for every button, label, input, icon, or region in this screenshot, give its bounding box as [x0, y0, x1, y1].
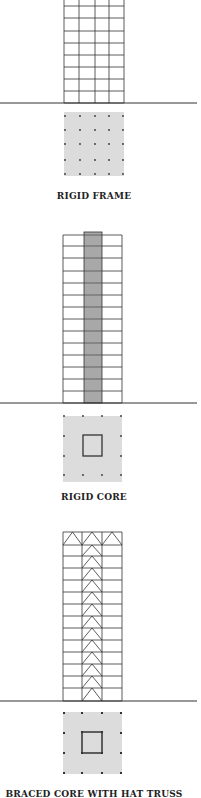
column-dot: [120, 415, 122, 417]
core-chevron-brace: [82, 676, 102, 688]
column-dot: [120, 435, 122, 437]
column-dot: [108, 173, 110, 175]
column-dot: [81, 712, 83, 714]
column-dot: [108, 129, 110, 131]
core-chevron-brace: [82, 616, 102, 628]
rigid-core-plan: [63, 415, 122, 482]
column-dot: [79, 115, 81, 117]
core-column-dot: [101, 731, 103, 733]
braced-core-hat-truss-elevation: [63, 532, 122, 701]
panel-rigid-core: [0, 232, 197, 482]
column-dot: [120, 474, 122, 476]
column-dot: [122, 143, 124, 145]
column-dot: [64, 159, 66, 161]
column-dot: [120, 732, 122, 734]
column-dot: [101, 415, 103, 417]
column-dot: [120, 772, 122, 774]
column-dot: [64, 129, 66, 131]
column-dot: [122, 173, 124, 175]
column-dot: [79, 173, 81, 175]
core-chevron-brace: [82, 580, 102, 592]
column-dot: [64, 173, 66, 175]
core-chevron-brace: [82, 556, 102, 568]
hat-truss-brace: [63, 532, 82, 545]
column-dot: [63, 435, 65, 437]
column-dot: [108, 143, 110, 145]
label-braced-core-hat-truss: BRACED CORE WITH HAT TRUSS: [0, 789, 188, 798]
column-dot: [82, 474, 84, 476]
column-dot: [122, 129, 124, 131]
core-column-dot: [81, 752, 83, 754]
rigid-core-elevation: [63, 232, 122, 403]
hat-truss-brace: [102, 532, 122, 545]
column-dot: [101, 772, 103, 774]
column-dot: [63, 772, 65, 774]
core-chevron-brace: [82, 628, 102, 640]
column-dot: [94, 143, 96, 145]
column-dot: [101, 712, 103, 714]
label-rigid-frame: RIGID FRAME: [0, 191, 188, 201]
column-dot: [120, 752, 122, 754]
floor-plan: [63, 416, 122, 482]
column-dot: [82, 415, 84, 417]
core-chevron-brace: [82, 688, 102, 701]
column-dot: [120, 712, 122, 714]
core-chevron-brace: [82, 568, 102, 580]
core-chevron-brace: [82, 640, 102, 652]
floor-plan: [64, 112, 124, 176]
hat-truss-brace: [82, 532, 102, 545]
column-dot: [64, 115, 66, 117]
rigid-frame-plan: [64, 112, 124, 176]
column-dot: [63, 455, 65, 457]
column-dot: [81, 772, 83, 774]
column-dot: [79, 143, 81, 145]
column-dot: [122, 115, 124, 117]
column-dot: [94, 129, 96, 131]
structural-systems-diagram: [0, 0, 201, 798]
label-rigid-core: RIGID CORE: [0, 492, 188, 502]
core-column-dot: [101, 752, 103, 754]
column-dot: [108, 159, 110, 161]
column-dot: [63, 732, 65, 734]
rigid-frame-elevation: [64, 0, 124, 103]
column-dot: [108, 115, 110, 117]
column-dot: [63, 712, 65, 714]
column-dot: [122, 159, 124, 161]
column-dot: [120, 455, 122, 457]
column-dot: [94, 115, 96, 117]
column-dot: [79, 159, 81, 161]
core-chevron-brace: [82, 664, 102, 676]
column-dot: [63, 752, 65, 754]
core-chevron-brace: [82, 604, 102, 616]
column-dot: [101, 474, 103, 476]
column-dot: [79, 129, 81, 131]
panel-rigid-frame: [0, 0, 197, 176]
column-dot: [94, 159, 96, 161]
column-dot: [64, 143, 66, 145]
core-column-dot: [81, 731, 83, 733]
braced-core-hat-truss-plan: [63, 712, 122, 774]
panel-braced-core-hat-truss: [0, 532, 197, 774]
floor-plan: [63, 712, 122, 774]
column-dot: [94, 173, 96, 175]
core-chevron-brace: [82, 592, 102, 604]
column-dot: [63, 415, 65, 417]
column-dot: [63, 474, 65, 476]
core-wall: [84, 232, 102, 403]
core-chevron-brace: [82, 545, 102, 556]
core-chevron-brace: [82, 652, 102, 664]
